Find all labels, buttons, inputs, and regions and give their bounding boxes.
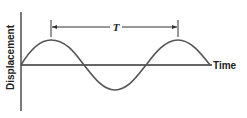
displacement-axis-label: Displacement	[5, 24, 16, 90]
arrowhead-right	[172, 25, 177, 29]
sine-wave-diagram: T Time Displacement	[0, 0, 247, 118]
time-axis-label: Time	[213, 60, 237, 71]
arrowhead-left	[52, 25, 57, 29]
period-label: T	[113, 21, 121, 33]
